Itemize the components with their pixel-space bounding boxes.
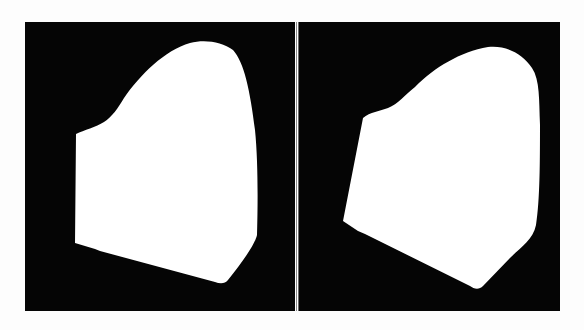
mask-overlay	[0, 0, 584, 330]
right-mask-shape	[343, 47, 540, 289]
left-mask-shape	[75, 41, 258, 283]
